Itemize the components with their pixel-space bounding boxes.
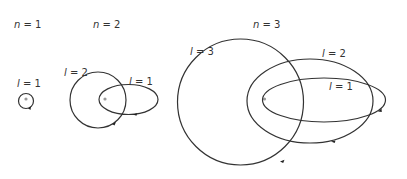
orbit-n1-l1: [19, 94, 34, 109]
orbit-diagram: [0, 0, 407, 179]
arrow-icon: [280, 160, 285, 163]
orbit-group-n3: [178, 39, 386, 165]
orbit-n3-l2: [247, 59, 373, 143]
nucleus-icon: [263, 97, 266, 100]
orbit-n2-l2: [70, 72, 126, 128]
orbit-group-n2: [70, 72, 158, 128]
orbit-n3-l3: [178, 39, 304, 165]
orbit-n2-l1: [99, 85, 158, 115]
nucleus-icon: [24, 97, 27, 100]
orbit-n3-l1: [263, 78, 386, 122]
nucleus-icon: [103, 97, 106, 100]
orbit-group-n1: [19, 94, 34, 110]
